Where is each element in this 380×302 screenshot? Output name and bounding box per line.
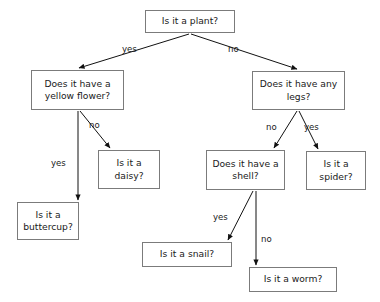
node-plant[interactable]: Is it a plant? [145,10,235,33]
decision-tree-diagram: Is it a plant?Does it have a yellow flow… [0,0,380,302]
node-spider[interactable]: Is it a spider? [306,151,366,190]
node-buttercup-label: Is it a buttercup? [23,209,73,234]
node-worm[interactable]: Is it a worm? [249,267,337,292]
node-worm-label: Is it a worm? [264,273,323,286]
edge-label-yellowflower-no-daisy: no [89,120,100,130]
node-daisy-label: Is it a daisy? [114,157,143,182]
node-shell[interactable]: Does it have a shell? [206,150,285,190]
edge-label-plant-no-legs: no [228,44,239,54]
edge-label-shell-no-worm: no [261,234,272,244]
node-legs-label: Does it have any legs? [260,78,337,103]
node-yellowflower[interactable]: Does it have a yellow flower? [31,70,124,110]
edge-label-plant-yes-yellowflower: yes [122,44,137,54]
edge-label-legs-no-shell: no [266,122,277,132]
edge-label-shell-yes-snail: yes [213,212,228,222]
edge-label-yellowflower-yes-buttercup: yes [51,158,66,168]
node-shell-label: Does it have a shell? [212,158,278,183]
edge-plant-no-legs [191,34,297,69]
node-buttercup[interactable]: Is it a buttercup? [17,202,79,240]
edge-label-legs-yes-spider: yes [304,122,319,132]
node-plant-label: Is it a plant? [162,15,218,28]
node-legs[interactable]: Does it have any legs? [252,71,345,110]
node-daisy[interactable]: Is it a daisy? [98,150,160,189]
edge-shell-yes-snail [228,191,253,240]
node-snail-label: Is it a snail? [160,248,214,261]
node-spider-label: Is it a spider? [319,158,352,183]
node-yellowflower-label: Does it have a yellow flower? [44,78,110,103]
node-snail[interactable]: Is it a snail? [142,242,232,267]
edge-legs-no-shell [274,111,297,148]
